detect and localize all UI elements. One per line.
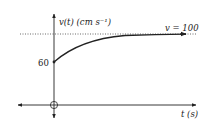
x-axis-label: t (s) [181,109,198,119]
y-tick-60: 60 [38,58,49,68]
velocity-curve [54,34,186,62]
velocity-time-graph: v(t) (cm s⁻¹) v = 100 60 t (s) [0,0,207,129]
asymptote-label: v = 100 [165,23,199,33]
y-axis-label: v(t) (cm s⁻¹) [59,17,111,27]
start-point [53,61,56,64]
